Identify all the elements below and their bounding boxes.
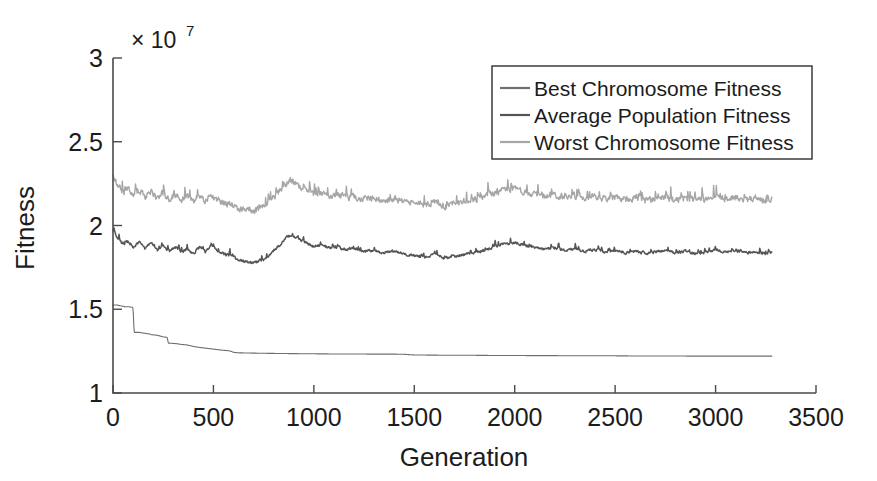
y-tick-label: 1: [89, 379, 103, 407]
x-tick-label: 1500: [386, 403, 442, 431]
x-tick-label: 3000: [688, 403, 744, 431]
x-tick-label: 2500: [587, 403, 643, 431]
x-tick-label: 1000: [286, 403, 342, 431]
legend-entry-worst[interactable]: Worst Chromosome Fitness: [500, 131, 794, 154]
y-tick-label: 3: [89, 44, 103, 72]
legend-label-worst: Worst Chromosome Fitness: [534, 131, 794, 154]
fitness-convergence-chart: 0500100015002000250030003500 11.522.53 ×…: [0, 0, 877, 481]
x-tick-label: 0: [106, 403, 120, 431]
y-axis-label: Fitness: [10, 186, 40, 270]
y-tick-label: 2.5: [68, 128, 103, 156]
y-tick-label: 2: [89, 212, 103, 240]
chart-figure: 0500100015002000250030003500 11.522.53 ×…: [0, 0, 877, 481]
legend-entry-average[interactable]: Average Population Fitness: [500, 104, 790, 127]
legend: Best Chromosome Fitness Average Populati…: [492, 66, 812, 159]
legend-label-average: Average Population Fitness: [534, 104, 790, 127]
y-axis-multiplier-base: × 10: [131, 27, 176, 53]
x-tick-label: 2000: [487, 403, 543, 431]
legend-label-best: Best Chromosome Fitness: [534, 77, 781, 100]
legend-entry-best[interactable]: Best Chromosome Fitness: [500, 77, 781, 100]
y-axis-multiplier-exponent: 7: [186, 22, 194, 39]
x-axis-label: Generation: [400, 442, 529, 472]
x-tick-label: 500: [193, 403, 235, 431]
x-tick-label: 3500: [788, 403, 844, 431]
y-tick-label: 1.5: [68, 295, 103, 323]
